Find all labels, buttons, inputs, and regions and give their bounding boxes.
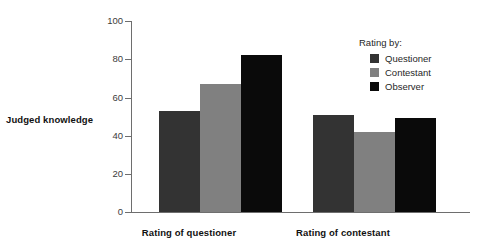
y-tick-label-80: 80 — [97, 54, 123, 64]
legend-swatch-icon-contestant — [370, 68, 379, 77]
y-tick-label-60: 60 — [97, 93, 123, 103]
bar-observer-group2 — [395, 118, 436, 212]
y-tick-label-0: 0 — [97, 207, 123, 217]
bar-questioner-group2 — [313, 115, 354, 212]
legend-item-contestant: Contestant — [370, 65, 471, 79]
group-label-questioner: Rating of questioner — [99, 227, 279, 238]
bar-contestant-group2 — [354, 132, 395, 212]
bar-observer-group1 — [241, 55, 282, 212]
legend: Rating by: Questioner Contestant Observe… — [359, 37, 471, 93]
bar-questioner-group1 — [159, 111, 200, 212]
legend-swatch-icon-questioner — [370, 54, 379, 63]
group-label-contestant: Rating of contestant — [253, 227, 433, 238]
legend-swatch-icon-observer — [370, 82, 379, 91]
legend-item-observer: Observer — [370, 79, 471, 93]
legend-label-contestant: Contestant — [385, 67, 431, 78]
bar-contestant-group1 — [200, 84, 241, 212]
bar-chart: Judged knowledge 100 80 60 40 20 0 Ratin… — [0, 0, 478, 249]
y-tick-label-20: 20 — [97, 169, 123, 179]
legend-title: Rating by: — [359, 37, 471, 48]
legend-label-questioner: Questioner — [385, 53, 431, 64]
y-tick-label-100: 100 — [97, 16, 123, 26]
y-tick-label-40: 40 — [97, 131, 123, 141]
y-tick-0 — [125, 212, 131, 213]
legend-label-observer: Observer — [385, 81, 424, 92]
y-axis-title: Judged knowledge — [6, 114, 106, 126]
legend-item-questioner: Questioner — [370, 51, 471, 65]
x-axis-line — [131, 212, 470, 213]
